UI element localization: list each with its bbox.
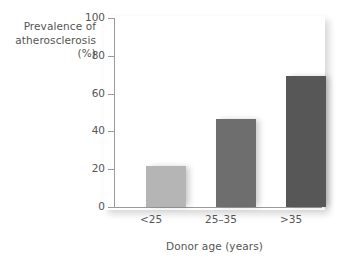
y-tick-label-100: 100 (85, 11, 105, 24)
y-tick-label-20: 20 (92, 162, 105, 175)
x-tick-label-lt25: <25 (114, 213, 188, 226)
plot-area: 0 20 40 60 80 100 (114, 18, 322, 207)
x-tick-label-gt35: >35 (254, 213, 328, 226)
x-tick-label-25-35: 25–35 (184, 213, 258, 226)
y-tick-label-0: 0 (98, 200, 105, 213)
y-axis-title: Prevalence of atherosclerosis (%) (2, 20, 96, 61)
y-axis-title-line-2: atherosclerosis (2, 34, 96, 48)
x-axis-spine (114, 207, 322, 208)
bar-lt25 (146, 166, 186, 207)
y-tick-label-40: 40 (92, 124, 105, 137)
x-axis-title: Donor age (years) (104, 240, 325, 252)
bar-25-35 (216, 119, 256, 207)
y-axis-title-line-1: Prevalence of (2, 20, 96, 34)
y-axis-spine (114, 18, 115, 207)
y-tick-label-60: 60 (92, 87, 105, 100)
y-axis-title-line-3: (%) (2, 47, 96, 61)
bar-gt35 (286, 76, 326, 207)
bar-chart-figure: Prevalence of atherosclerosis (%) 0 20 4… (0, 0, 350, 271)
y-tick-label-80: 80 (92, 49, 105, 62)
